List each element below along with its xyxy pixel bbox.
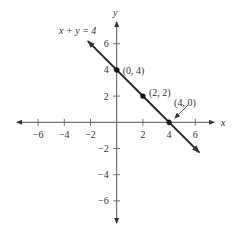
- y-tick-label: 4: [104, 64, 109, 75]
- points-layer: (0, 4)(2, 2)(4, 0): [114, 65, 196, 125]
- y-tick-label: −4: [98, 169, 109, 180]
- x-tick-label: 4: [167, 129, 172, 140]
- x-tick-label: 2: [140, 129, 145, 140]
- x-axis-label: x: [220, 117, 226, 128]
- y-tick-label: 6: [104, 38, 109, 49]
- equation-label: x + y = 4: [58, 25, 96, 36]
- x-tick-label: −6: [33, 129, 44, 140]
- point-label: (0, 4): [123, 65, 145, 77]
- x-tick-label: −2: [85, 129, 96, 140]
- line-layer: x + y = 4: [58, 25, 199, 152]
- axes: x y: [17, 7, 226, 223]
- data-point: [140, 94, 145, 99]
- y-axis-label: y: [112, 7, 118, 18]
- y-tick-label: −2: [98, 143, 109, 154]
- data-point: [114, 67, 119, 72]
- x-tick-label: −4: [59, 129, 70, 140]
- x-tick-label: 6: [193, 129, 198, 140]
- data-point: [167, 120, 172, 125]
- coordinate-plane: x y −6−4−2246−6−4−2246 x + y = 4 (0, 4)(…: [0, 0, 235, 235]
- point-label: (2, 2): [149, 87, 171, 99]
- y-tick-label: −6: [98, 195, 109, 206]
- y-tick-label: 2: [104, 91, 109, 102]
